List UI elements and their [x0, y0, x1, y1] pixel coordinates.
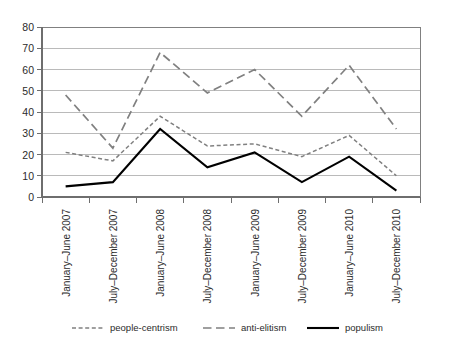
- x-tick-label: July–December 2010: [391, 209, 402, 304]
- chart-canvas: 80 70 60 50 40 30 20 10 0 January–June 2…: [0, 0, 455, 351]
- x-tick-labels: January–June 2007 July–December 2007 Jan…: [61, 209, 403, 304]
- y-tick-label: 60: [22, 64, 34, 76]
- x-tick-label: January–June 2010: [344, 209, 355, 297]
- legend-label-populism: populism: [345, 322, 383, 333]
- legend-label-people-centrism: people-centrism: [110, 322, 178, 333]
- x-tick-label: July–December 2008: [202, 209, 213, 304]
- y-tick-label: 30: [22, 127, 34, 139]
- legend: people-centrism anti-elitism populism: [72, 322, 383, 333]
- x-tick-label: July–December 2007: [108, 209, 119, 304]
- line-chart: 80 70 60 50 40 30 20 10 0 January–June 2…: [0, 0, 455, 351]
- x-tick-label: July–December 2009: [297, 209, 308, 304]
- x-tick-label: January–June 2007: [61, 209, 72, 297]
- y-tick-labels: 80 70 60 50 40 30 20 10 0: [22, 21, 34, 203]
- y-tick-label: 10: [22, 170, 34, 182]
- y-tick-label: 70: [22, 42, 34, 54]
- y-tick-label: 20: [22, 149, 34, 161]
- y-tick-label: 80: [22, 21, 34, 33]
- y-tick-label: 40: [22, 106, 34, 118]
- x-tick-label: January–June 2008: [155, 209, 166, 297]
- x-tick-label: January–June 2009: [250, 209, 261, 297]
- legend-label-anti-elitism: anti-elitism: [241, 322, 286, 333]
- y-tick-label: 50: [22, 85, 34, 97]
- x-tick-marks: [42, 197, 420, 203]
- y-tick-label: 0: [28, 191, 34, 203]
- y-tick-marks: [37, 27, 42, 197]
